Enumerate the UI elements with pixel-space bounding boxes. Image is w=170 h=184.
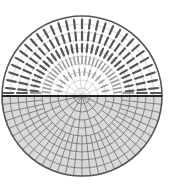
orientation-dash <box>126 91 133 92</box>
orientation-dash <box>79 69 80 75</box>
orientation-dash <box>6 88 15 89</box>
orientation-dash <box>114 92 121 93</box>
orientation-dash <box>89 20 90 29</box>
orientation-dash <box>71 45 73 52</box>
polar-grid-diagram <box>0 0 170 184</box>
orientation-dash <box>87 45 88 52</box>
lower-half-polar-grid <box>2 96 162 176</box>
orientation-dash <box>31 85 38 87</box>
upper-half-dash-field <box>2 16 162 96</box>
orientation-dash <box>138 89 146 90</box>
orientation-dash <box>84 69 85 75</box>
orientation-dash <box>78 57 79 64</box>
orientation-dash <box>31 91 38 92</box>
orientation-dash <box>88 32 89 40</box>
orientation-dash <box>43 92 50 93</box>
orientation-dash <box>125 85 132 87</box>
orientation-dash <box>77 45 78 52</box>
orientation-dash <box>85 57 86 64</box>
orientation-dash <box>74 20 75 29</box>
orientation-dash <box>75 32 76 40</box>
orientation-dash <box>18 89 26 90</box>
orientation-dash <box>149 88 158 89</box>
orientation-dash <box>91 45 93 52</box>
